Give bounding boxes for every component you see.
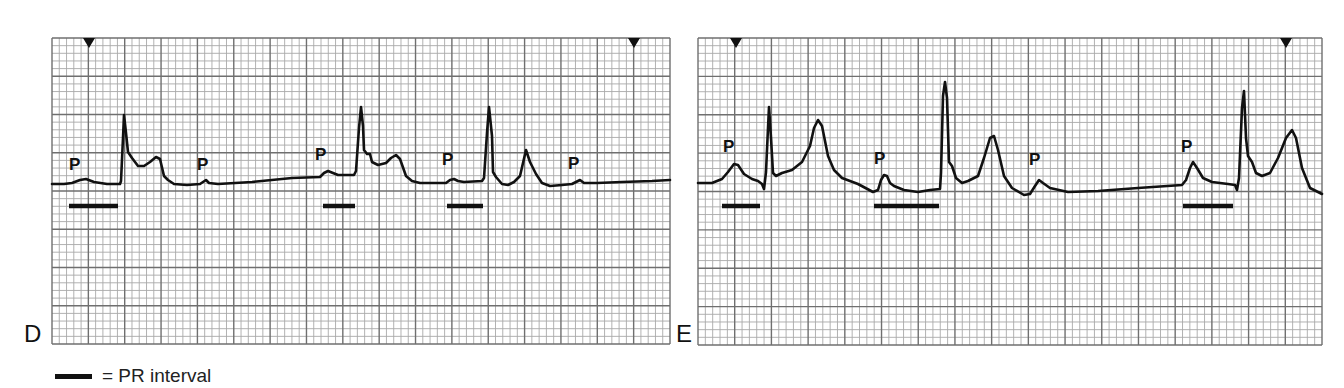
grid [698, 38, 1322, 345]
marker-triangle-icon [628, 38, 640, 48]
panel-label-e: E [676, 322, 692, 346]
marker-triangle-icon [730, 38, 742, 48]
p-wave-label: P [568, 154, 579, 173]
p-wave-label: P [723, 137, 734, 156]
ecg-trace [52, 107, 670, 186]
marker-triangle-icon [1280, 38, 1292, 48]
ecg-trace [698, 82, 1322, 195]
legend: = PR interval [55, 364, 211, 388]
legend-text: = PR interval [102, 365, 211, 387]
panel-label-d: D [24, 322, 41, 346]
p-wave-label: P [197, 155, 208, 174]
p-wave-label: P [69, 155, 80, 174]
p-wave-label: P [874, 149, 885, 168]
p-wave-label: P [1181, 137, 1192, 156]
ecg-strip-d: PPPPP [52, 38, 670, 344]
ecg-panel-e: PPPP E [698, 38, 1322, 345]
p-wave-label: P [442, 150, 453, 169]
pr-interval-bar-icon [55, 374, 92, 379]
marker-triangle-icon [83, 38, 95, 48]
ecg-strip-e: PPPP [698, 38, 1322, 345]
ecg-panel-d: PPPPP D [52, 38, 670, 344]
grid [52, 38, 670, 344]
p-wave-label: P [315, 145, 326, 164]
p-wave-label: P [1029, 150, 1040, 169]
